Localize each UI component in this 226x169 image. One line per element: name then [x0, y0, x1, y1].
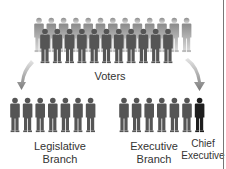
person-icon — [10, 98, 20, 132]
executive-label-line1: Executive — [124, 140, 184, 153]
chief-executive-label: Chief Executive — [180, 138, 226, 162]
legislative-branch-figures — [10, 98, 95, 132]
arrow-to-chief-icon — [185, 58, 205, 91]
person-icon — [86, 98, 96, 132]
right-divider — [223, 0, 224, 169]
person-icon — [35, 98, 45, 132]
legislative-branch-label: Legislative Branch — [22, 140, 98, 166]
voting-diagram: Voters Legislative Branch Executive Bran… — [0, 0, 226, 169]
legislative-label-line2: Branch — [22, 153, 98, 166]
person-icon — [23, 98, 33, 132]
person-icon — [157, 98, 167, 132]
executive-branch-figures — [119, 98, 192, 132]
executive-branch-label: Executive Branch — [124, 140, 184, 166]
legislative-label-line1: Legislative — [22, 140, 98, 153]
person-icon — [182, 18, 192, 52]
chief-executive-figure — [195, 98, 205, 132]
arrow-to-legislative-icon — [17, 60, 34, 90]
person-icon — [144, 98, 154, 132]
person-icon — [73, 98, 83, 132]
person-icon — [195, 98, 205, 132]
chief-label-line1: Chief — [180, 138, 226, 150]
chief-label-line2: Executive — [180, 150, 226, 162]
person-icon — [61, 98, 71, 132]
person-icon — [132, 98, 142, 132]
voters-label: Voters — [90, 70, 130, 83]
executive-label-line2: Branch — [124, 153, 184, 166]
person-icon — [119, 98, 129, 132]
person-icon — [182, 98, 192, 132]
person-icon — [170, 98, 180, 132]
person-icon — [48, 98, 58, 132]
